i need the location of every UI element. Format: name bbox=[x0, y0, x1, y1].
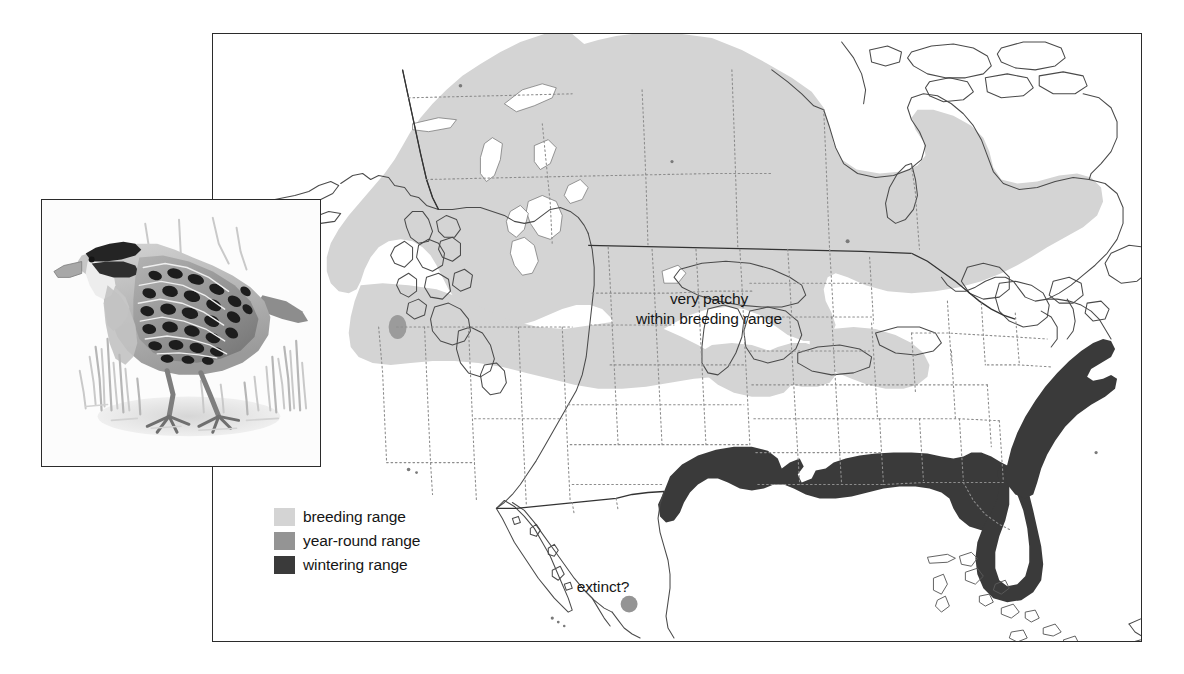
extinct-marker-dot bbox=[621, 596, 638, 613]
legend-swatch-year-round bbox=[274, 532, 295, 550]
bird-eye bbox=[89, 257, 95, 263]
annotation-very-patchy: very patchy within breeding range bbox=[602, 289, 816, 330]
legend-label-wintering: wintering range bbox=[303, 556, 407, 574]
annotation-extinct: extinct? bbox=[543, 577, 663, 597]
legend-item-wintering: wintering range bbox=[274, 554, 484, 576]
legend-swatch-wintering bbox=[274, 556, 295, 574]
legend-label-breeding: breeding range bbox=[303, 508, 406, 526]
ground-shadow bbox=[98, 397, 281, 437]
legend-label-year-round: year-round range bbox=[303, 532, 420, 550]
map-legend: breeding range year-round range winterin… bbox=[274, 506, 484, 578]
bird-illustration-inset bbox=[41, 199, 321, 467]
legend-item-year-round: year-round range bbox=[274, 530, 484, 552]
legend-swatch-breeding bbox=[274, 508, 295, 526]
legend-item-breeding: breeding range bbox=[274, 506, 484, 528]
figure-canvas: very patchy within breeding range extinc… bbox=[0, 0, 1184, 674]
sora-rail-illustration bbox=[42, 200, 320, 466]
